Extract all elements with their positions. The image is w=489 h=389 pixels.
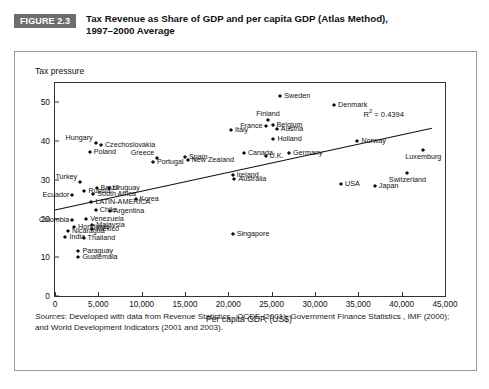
y-tick-label: 40 xyxy=(41,136,55,146)
source-text: : Developed with data from Revenue Stati… xyxy=(35,312,449,332)
data-point-label: Ecuador xyxy=(43,191,70,199)
figure-header: FIGURE 2.3 Tax Revenue as Share of GDP a… xyxy=(14,14,476,48)
data-point-label: U.K. xyxy=(270,152,284,160)
x-tick-label: 5,000 xyxy=(88,296,109,309)
data-point[interactable] xyxy=(81,235,85,239)
data-point-label: New Zealand xyxy=(192,157,234,165)
data-point-label: Japan xyxy=(379,183,399,191)
data-point-label: Turkey xyxy=(55,173,77,181)
data-point-label: Argentina xyxy=(114,207,145,215)
data-point-label: Italy xyxy=(235,126,248,134)
y-tick-mark xyxy=(55,102,59,103)
x-tick-label: 20,000 xyxy=(216,296,241,309)
source-label: Sources xyxy=(35,312,65,321)
data-point-label: Thailand xyxy=(88,234,116,242)
y-tick-label: 30 xyxy=(41,175,55,185)
x-tick-label: 40,000 xyxy=(389,296,414,309)
data-point-label: Germany xyxy=(293,149,323,157)
data-point-label: Greece xyxy=(131,149,155,157)
y-axis-label: Tax pressure xyxy=(35,66,84,76)
data-point-label: Australia xyxy=(238,175,266,183)
data-point-label: Sweden xyxy=(284,92,310,100)
figure-body: Tax pressure R2 = 0.4394 0102030405005,0… xyxy=(14,51,477,371)
y-tick-mark xyxy=(55,257,59,258)
scatter-plot-area: R2 = 0.4394 0102030405005,00010,00015,00… xyxy=(54,82,446,297)
figure-title-line-2: 1997–2000 Average xyxy=(86,25,175,36)
data-point-label: Portugal xyxy=(157,158,184,166)
y-tick-label: 50 xyxy=(41,97,55,107)
y-tick-label: 10 xyxy=(41,252,55,262)
data-point-label: Holland xyxy=(277,135,301,143)
x-tick-label: 25,000 xyxy=(259,296,284,309)
x-tick-label: 45,000 xyxy=(432,296,457,309)
data-point-label: Luxemburg xyxy=(405,153,441,161)
x-tick-label: 30,000 xyxy=(302,296,327,309)
x-tick-label: 0 xyxy=(53,296,58,309)
x-tick-label: 15,000 xyxy=(172,296,197,309)
data-point-label: Hungary xyxy=(66,134,93,142)
data-point-label: Guatemala xyxy=(82,254,117,262)
data-point-label: Norway xyxy=(361,137,385,145)
figure-page: FIGURE 2.3 Tax Revenue as Share of GDP a… xyxy=(0,0,489,389)
x-tick-label: 35,000 xyxy=(346,296,371,309)
x-tick-label: 10,000 xyxy=(129,296,154,309)
data-point-label: Finland xyxy=(256,110,280,118)
data-point-label: Colombia xyxy=(39,216,69,224)
data-point-label: Denmark xyxy=(338,102,367,110)
r-squared-annotation: R2 = 0.4394 xyxy=(364,108,405,119)
data-point-label: Austria xyxy=(281,126,303,134)
data-point-label: Singapore xyxy=(237,230,270,238)
figure-number-badge: FIGURE 2.3 xyxy=(14,14,76,28)
source-note: Sources: Developed with data from Revenu… xyxy=(35,311,459,334)
figure-title: Tax Revenue as Share of GDP and per capi… xyxy=(86,13,476,38)
y-tick-mark xyxy=(55,141,59,142)
data-point-label: USA xyxy=(345,180,360,188)
data-point-label: Poland xyxy=(94,148,116,156)
figure-title-line-1: Tax Revenue as Share of GDP and per capi… xyxy=(86,13,388,24)
